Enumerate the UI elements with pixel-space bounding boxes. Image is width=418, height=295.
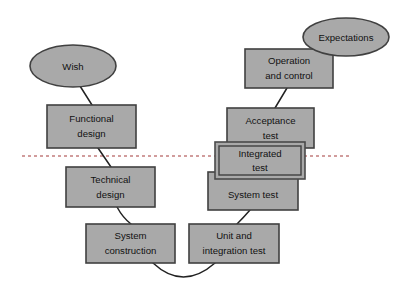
integrated-test-label-line1: Integrated <box>238 148 281 159</box>
technical-design-label-line1: Technical <box>91 174 131 185</box>
technical-design-label-line2: design <box>96 189 124 200</box>
system-construction-label-line1: System <box>115 230 147 241</box>
system-construction-label-line2: construction <box>105 245 157 256</box>
operation-and-control-label-line2: and control <box>265 70 312 81</box>
unit-and-integration-test-label-line1: Unit and <box>216 230 252 241</box>
wish-label: Wish <box>62 61 83 72</box>
node-wish[interactable]: Wish <box>30 45 116 87</box>
functional-design-label-line1: Functional <box>69 113 113 124</box>
operation-and-control-label-line1: Operation <box>268 55 310 66</box>
node-system-construction[interactable]: System construction <box>86 224 175 263</box>
functional-design-label-line2: design <box>77 128 105 139</box>
unit-and-integration-test-label-line2: integration test <box>203 245 266 256</box>
node-functional-design[interactable]: Functional design <box>47 105 136 148</box>
vmodel-diagram-svg: Wish Functional design Technical design … <box>0 0 418 295</box>
system-test-label: System test <box>228 189 278 200</box>
node-integrated-test[interactable]: Integrated test <box>215 142 305 179</box>
node-unit-and-integration-test[interactable]: Unit and integration test <box>189 224 279 263</box>
integrated-test-label-line2: test <box>252 162 268 173</box>
acceptance-test-label-line1: Acceptance <box>245 115 295 126</box>
expectations-label: Expectations <box>319 32 374 43</box>
node-operation-and-control[interactable]: Operation and control <box>245 49 333 88</box>
node-technical-design[interactable]: Technical design <box>66 167 155 207</box>
node-expectations[interactable]: Expectations <box>303 18 389 56</box>
acceptance-test-label-line2: test <box>263 130 279 141</box>
vmodel-diagram-canvas: Wish Functional design Technical design … <box>0 0 418 295</box>
functional-design-rect-shape <box>47 105 136 148</box>
